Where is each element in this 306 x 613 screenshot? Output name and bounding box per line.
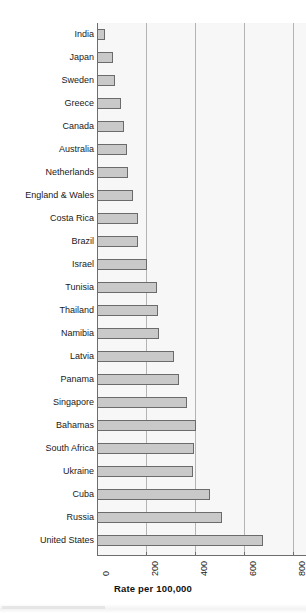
bar-row [97,414,306,437]
bar-chart: IndiaJapanSwedenGreeceCanadaAustraliaNet… [0,0,306,613]
category-label: Israel [0,253,94,276]
bar-row [97,230,306,253]
category-label: Russia [0,506,94,529]
category-label: Namibia [0,322,94,345]
x-axis-line [97,555,306,556]
bar[interactable] [97,144,127,155]
category-label: Japan [0,46,94,69]
bar[interactable] [97,213,138,224]
bar[interactable] [97,52,113,63]
plot-area [97,23,306,556]
category-label: Latvia [0,345,94,368]
category-label: Sweden [0,69,94,92]
x-tick-label: 200 [150,561,160,576]
category-label: Costa Rica [0,207,94,230]
bar-row [97,529,306,552]
x-tick-mark [195,552,196,556]
bar-row [97,253,306,276]
category-label: Thailand [0,299,94,322]
x-tick-label: 800 [297,561,306,576]
scrollbar-track[interactable] [2,606,105,609]
bar[interactable] [97,167,128,178]
bar[interactable] [97,512,222,523]
category-label: Netherlands [0,161,94,184]
bar-row [97,483,306,506]
bar-row [97,46,306,69]
bar-row [97,368,306,391]
category-label: England & Wales [0,184,94,207]
category-label: Australia [0,138,94,161]
bar-row [97,299,306,322]
bar[interactable] [97,420,196,431]
x-tick-label: 600 [248,561,258,576]
bar[interactable] [97,282,157,293]
bar[interactable] [97,374,179,385]
bar-row [97,437,306,460]
bar[interactable] [97,98,121,109]
bar[interactable] [97,489,210,500]
bar[interactable] [97,259,147,270]
bar-row [97,345,306,368]
bar-row [97,322,306,345]
bar-row [97,69,306,92]
bar[interactable] [97,328,159,339]
bar[interactable] [97,351,174,362]
x-tick-mark [293,552,294,556]
bar-row [97,276,306,299]
category-label: India [0,23,94,46]
bar[interactable] [97,443,194,454]
x-tick-label: 400 [199,561,209,576]
bar[interactable] [97,236,138,247]
category-label: Greece [0,92,94,115]
x-tick-label: 0 [101,571,111,576]
bar-row [97,184,306,207]
x-axis-title: Rate per 100,000 [0,583,306,594]
bar[interactable] [97,466,193,477]
bar-row [97,391,306,414]
category-label: Canada [0,115,94,138]
category-label: Ukraine [0,460,94,483]
bar-row [97,460,306,483]
category-label: Brazil [0,230,94,253]
bar[interactable] [97,121,124,132]
category-label: Singapore [0,391,94,414]
bar[interactable] [97,190,133,201]
bar-row [97,115,306,138]
bar[interactable] [97,397,187,408]
bar[interactable] [97,29,105,40]
category-label: Cuba [0,483,94,506]
bar-row [97,92,306,115]
category-label: Bahamas [0,414,94,437]
category-label: United States [0,529,94,552]
x-tick-mark [146,552,147,556]
bar-row [97,207,306,230]
bar-row [97,161,306,184]
x-tick-mark [244,552,245,556]
bar[interactable] [97,75,115,86]
bar-row [97,138,306,161]
bar[interactable] [97,305,158,316]
bar-row [97,23,306,46]
bar-row [97,506,306,529]
bar[interactable] [97,535,263,546]
category-label: Panama [0,368,94,391]
category-label: Tunisia [0,276,94,299]
x-tick-mark [97,552,98,556]
category-label: South Africa [0,437,94,460]
